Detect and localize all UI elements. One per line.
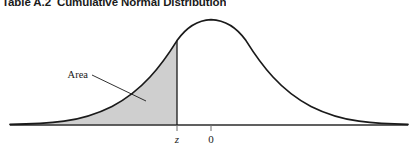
tick-label-z: z [174,133,180,145]
area-annotation-label: Area [68,69,89,80]
normal-curve-plot: z 0 Area [0,0,415,152]
normal-distribution-figure: Table A.2Cumulative Normal Distribution … [0,0,415,152]
shaded-area-region [10,41,177,125]
tick-label-zero: 0 [208,133,214,145]
